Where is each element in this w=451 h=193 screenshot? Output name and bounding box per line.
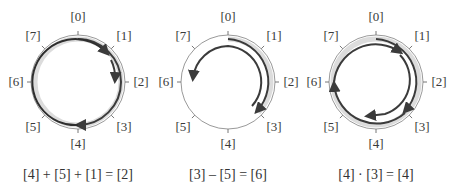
label-0: [0] (70, 9, 85, 24)
label-6: [6] (8, 74, 23, 89)
clock-diagram-subtraction: [0] [1] [2] [3] [4] [5] [6] [7] (153, 0, 303, 160)
label-5: [5] (25, 119, 40, 134)
tick-marks (325, 31, 427, 133)
label-2: [2] (431, 74, 446, 89)
arrow-fourth-3 (368, 55, 410, 116)
clock-ring (31, 35, 125, 129)
label-6: [6] (306, 74, 321, 89)
label-3: [3] (116, 119, 131, 134)
arrow-minus-5 (193, 46, 261, 106)
label-7: [7] (175, 28, 190, 43)
label-4: [4] (70, 136, 85, 151)
label-1: [1] (266, 28, 281, 43)
label-3: [3] (414, 119, 429, 134)
label-2: [2] (133, 74, 148, 89)
panel-subtraction: [0] [1] [2] [3] [4] [5] [6] [7] [3] – [5… (153, 0, 303, 193)
label-4: [4] (368, 136, 383, 151)
equation-addition: [4] + [5] + [1] = [2] (3, 167, 153, 183)
panel-multiplication: [0] [1] [2] [3] [4] [5] [6] [7] [4] · [3… (301, 0, 451, 193)
label-1: [1] (414, 28, 429, 43)
label-0: [0] (368, 9, 383, 24)
label-5: [5] (323, 119, 338, 134)
label-7: [7] (323, 28, 338, 43)
clock-diagram-addition: [0] [1] [2] [3] [4] [5] [6] [7] (3, 0, 153, 160)
equation-subtraction: [3] – [5] = [6] (153, 167, 303, 183)
panel-addition: [0] [1] [2] [3] [4] [5] [6] [7] [4] + [5… (3, 0, 153, 193)
label-0: [0] (220, 9, 235, 24)
label-4: [4] (220, 136, 235, 151)
equation-multiplication: [4] · [3] = [4] (301, 167, 451, 183)
arrow-step-5 (32, 39, 107, 125)
label-7: [7] (25, 28, 40, 43)
label-5: [5] (175, 119, 190, 134)
label-6: [6] (158, 74, 173, 89)
label-3: [3] (266, 119, 281, 134)
shaded-band (333, 39, 419, 125)
tick-marks (27, 31, 129, 133)
label-1: [1] (116, 28, 131, 43)
clock-diagram-multiplication: [0] [1] [2] [3] [4] [5] [6] [7] (301, 0, 451, 160)
label-2: [2] (283, 74, 298, 89)
